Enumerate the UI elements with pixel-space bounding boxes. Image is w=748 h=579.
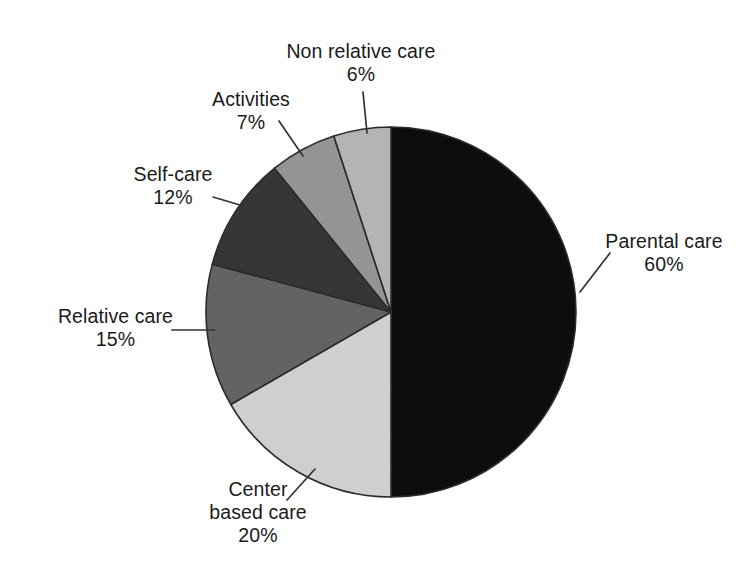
pie-label-self-care: Self-care 12% [100, 163, 246, 209]
pie-label-self-care-name: Self-care [100, 163, 246, 186]
pie-chart-figure: Non relative care 6% Activities 7% Self-… [0, 0, 748, 579]
pie-label-non-relative-care: Non relative care 6% [251, 40, 471, 86]
pie-label-self-care-value: 12% [100, 186, 246, 209]
pie-label-activities-name: Activities [178, 88, 324, 111]
pie-chart-svg [0, 0, 748, 579]
pie-slice-parental-care[interactable] [391, 127, 576, 497]
pie-label-parental-care: Parental care 60% [588, 230, 740, 276]
pie-label-center-based-care: Center based care 20% [168, 478, 348, 547]
pie-label-relative-care-name: Relative care [24, 305, 207, 328]
pie-label-center-based-care-value: 20% [168, 524, 348, 547]
pie-label-center-based-care-name-line1: Center [168, 478, 348, 501]
pie-label-parental-care-value: 60% [588, 253, 740, 276]
pie-label-relative-care-value: 15% [24, 328, 207, 351]
pie-label-center-based-care-name-line2: based care [168, 501, 348, 524]
pie-label-activities: Activities 7% [178, 88, 324, 134]
pie-label-parental-care-name: Parental care [588, 230, 740, 253]
pie-label-non-relative-care-value: 6% [251, 63, 471, 86]
pie-label-activities-value: 7% [178, 111, 324, 134]
pie-label-relative-care: Relative care 15% [24, 305, 207, 351]
leader-line-non-relative-care [363, 92, 367, 133]
pie-label-non-relative-care-name: Non relative care [251, 40, 471, 63]
